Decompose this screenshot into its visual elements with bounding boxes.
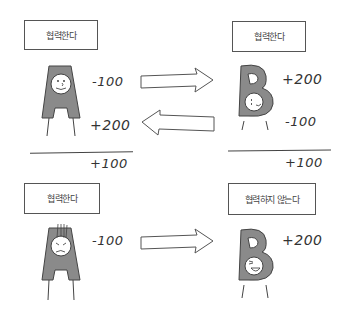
figure-a-smiling-icon [40,64,85,139]
arrow-left-icon [140,110,215,138]
figure-b-smiling-icon [236,64,281,134]
label-a-bottom: 협력한다 [24,183,100,214]
figure-b-laughing-icon [236,228,281,303]
sum-line-a [30,151,133,153]
total-a: +100 [90,156,128,171]
label-b-bottom: 협력하지 않는다 [228,183,316,215]
payoff-b-bottom: +200 [282,232,322,248]
payoff-b-top-2: -100 [285,114,317,129]
payoff-b-top-1: +200 [282,71,322,87]
label-b-top: 협력한다 [232,21,306,52]
label-a-top: 협력한다 [24,20,98,50]
figure-a-distressed-icon [40,224,85,304]
payoff-a-top-2: +200 [90,117,130,133]
total-b: +100 [285,155,323,170]
payoff-a-top-1: -100 [92,74,124,89]
arrow-right-icon [140,67,215,95]
arrow-right-icon [140,228,215,256]
sum-line-b [228,150,331,152]
payoff-a-bottom: -100 [92,233,124,248]
